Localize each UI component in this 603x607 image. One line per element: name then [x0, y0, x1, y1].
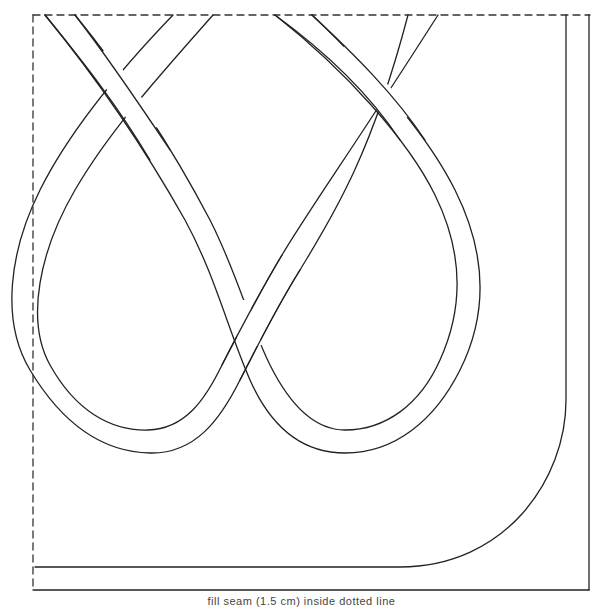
upper-left-crossing-mask [88, 48, 160, 138]
upper-left-crossing [45, 15, 170, 160]
pattern-caption: fill seam (1.5 cm) inside dotted line [0, 595, 603, 607]
upper-right-crossing-mask [330, 42, 412, 130]
right-loop-inner-line [75, 15, 457, 430]
